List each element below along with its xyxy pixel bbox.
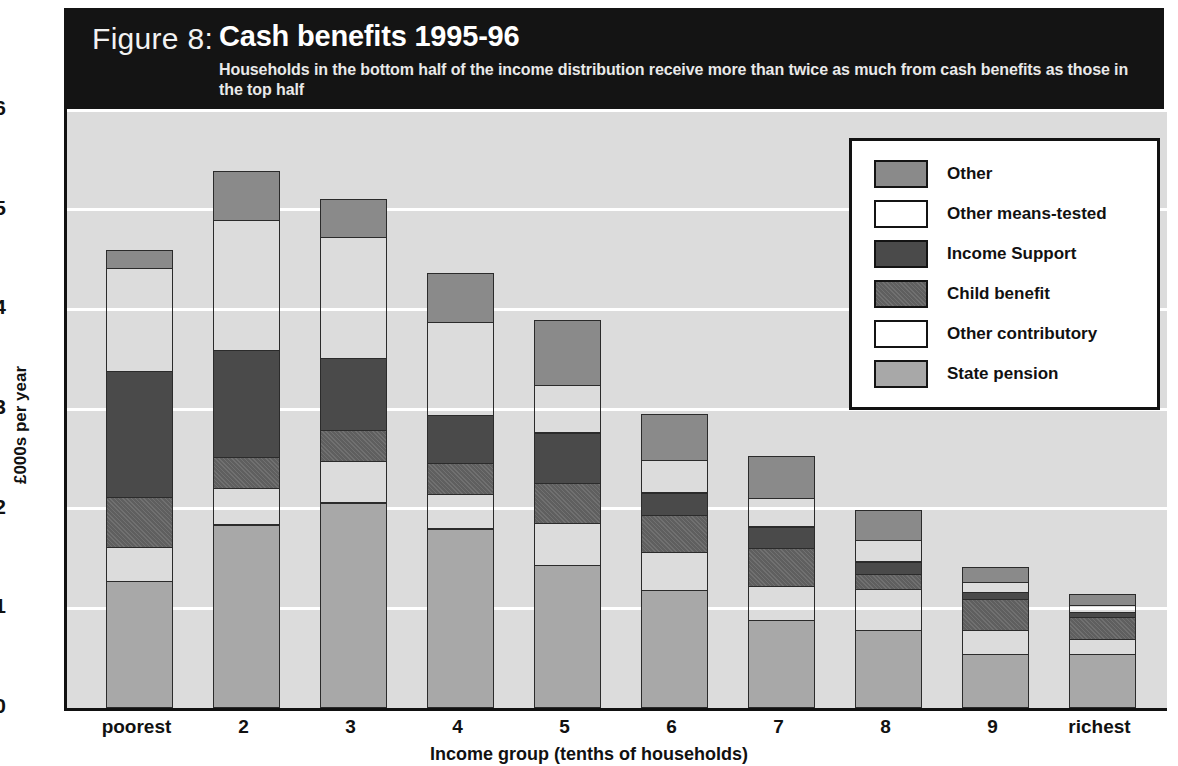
legend-item-other[interactable]: Other — [874, 157, 992, 191]
bar-segment-other-means-tested — [106, 268, 173, 372]
y-tick-6: 6 — [0, 96, 6, 120]
y-tick-0: 0 — [0, 694, 6, 718]
bar-segment-child-benefit — [855, 574, 922, 590]
bar-segment-other — [213, 171, 280, 220]
bar-richest — [1069, 595, 1136, 708]
bar-8 — [855, 512, 922, 708]
bar-segment-other-contributory — [748, 586, 815, 621]
bar-segment-child-benefit — [320, 429, 387, 461]
bar-segment-income-support — [427, 415, 494, 464]
y-tick-1: 1 — [0, 594, 6, 618]
bar-segment-state-pension — [962, 654, 1029, 708]
bar-segment-other-means-tested — [641, 459, 708, 493]
bar-segment-other-means-tested — [855, 539, 922, 562]
figure-container: Figure 8: Cash benefits 1995-96 Househol… — [0, 0, 1178, 766]
bar-segment-child-benefit — [748, 547, 815, 587]
bar-segment-other — [962, 567, 1029, 583]
bar-segment-other — [748, 456, 815, 498]
bar-segment-other-contributory — [641, 551, 708, 591]
bar-segment-child-benefit — [534, 482, 601, 523]
x-tick-3: 3 — [291, 716, 411, 738]
bar-segment-other-contributory — [106, 546, 173, 582]
x-tick-9: 9 — [933, 716, 1053, 738]
bar-segment-other-means-tested — [962, 582, 1029, 593]
bar-segment-child-benefit — [106, 496, 173, 547]
bar-segment-state-pension — [641, 590, 708, 708]
legend-item-other-contributory[interactable]: Other contributory — [874, 317, 1097, 351]
x-tick-richest: richest — [1040, 716, 1160, 738]
legend-label-state-pension: State pension — [947, 364, 1058, 384]
bar-segment-other — [534, 320, 601, 386]
x-tick-4: 4 — [398, 716, 518, 738]
bar-segment-other-contributory — [534, 522, 601, 566]
bar-segment-state-pension — [213, 524, 280, 708]
bar-segment-other-means-tested — [213, 219, 280, 351]
bar-segment-child-benefit — [641, 514, 708, 552]
bar-segment-other-means-tested — [534, 385, 601, 434]
y-axis-label-wrapper: £000s per year — [8, 330, 34, 530]
y-tick-3: 3 — [0, 395, 6, 419]
x-tick-7: 7 — [719, 716, 839, 738]
legend-item-income-support[interactable]: Income Support — [874, 237, 1076, 271]
bar-segment-income-support — [534, 432, 601, 483]
figure-number: Figure 8: — [92, 22, 213, 56]
x-axis-label: Income group (tenths of households) — [0, 744, 1178, 765]
bar-segment-income-support — [213, 350, 280, 458]
x-tick-2: 2 — [184, 716, 304, 738]
bar-segment-other-contributory — [213, 487, 280, 525]
bar-segment-income-support — [106, 371, 173, 498]
bar-2 — [213, 173, 280, 708]
legend-label-other-contributory: Other contributory — [947, 324, 1097, 344]
bar-segment-income-support — [320, 358, 387, 431]
bar-segment-other — [106, 250, 173, 269]
legend-label-child-benefit: Child benefit — [947, 284, 1050, 304]
bar-segment-other-contributory — [962, 630, 1029, 655]
legend-swatch-other — [874, 160, 928, 188]
bar-segment-income-support — [855, 561, 922, 575]
bar-segment-state-pension — [427, 528, 494, 708]
figure-title: Cash benefits 1995-96 — [219, 20, 519, 53]
bar-segment-other-contributory — [320, 460, 387, 503]
bar-segment-other-contributory — [1069, 639, 1136, 655]
bar-segment-other — [320, 199, 387, 237]
legend-swatch-other-means-tested — [874, 200, 928, 228]
bar-segment-other — [427, 273, 494, 323]
bar-6 — [641, 416, 708, 708]
figure-header-band: Figure 8: Cash benefits 1995-96 Househol… — [64, 8, 1164, 110]
bar-7 — [748, 458, 815, 708]
legend-swatch-child-benefit — [874, 280, 928, 308]
bar-segment-other-means-tested — [320, 236, 387, 359]
legend-label-income-support: Income Support — [947, 244, 1076, 264]
legend-item-other-means-tested[interactable]: Other means-tested — [874, 197, 1107, 231]
bar-segment-other-contributory — [427, 493, 494, 529]
y-axis-label: £000s per year — [11, 325, 31, 525]
legend-label-other: Other — [947, 164, 992, 184]
bar-segment-child-benefit — [1069, 617, 1136, 640]
legend-item-child-benefit[interactable]: Child benefit — [874, 277, 1050, 311]
bar-segment-child-benefit — [427, 462, 494, 494]
bar-segment-other — [855, 510, 922, 540]
bar-segment-state-pension — [534, 565, 601, 708]
legend-item-state-pension[interactable]: State pension — [874, 357, 1058, 391]
bar-9 — [962, 568, 1029, 708]
y-tick-4: 4 — [0, 295, 6, 319]
bar-segment-child-benefit — [213, 456, 280, 488]
bar-5 — [534, 321, 601, 708]
gridline — [67, 109, 1167, 112]
bar-segment-child-benefit — [962, 599, 1029, 631]
bar-segment-other — [641, 414, 708, 460]
y-tick-5: 5 — [0, 196, 6, 220]
legend-swatch-income-support — [874, 240, 928, 268]
bar-segment-other-means-tested — [748, 497, 815, 527]
bar-segment-other-means-tested — [427, 322, 494, 416]
bar-segment-state-pension — [855, 630, 922, 708]
figure-subtitle: Households in the bottom half of the inc… — [219, 60, 1149, 100]
legend-swatch-state-pension — [874, 360, 928, 388]
bar-segment-state-pension — [320, 502, 387, 708]
x-tick-6: 6 — [612, 716, 732, 738]
bar-segment-income-support — [641, 492, 708, 515]
x-tick-5: 5 — [505, 716, 625, 738]
bar-3 — [320, 201, 387, 708]
x-tick-8: 8 — [826, 716, 946, 738]
legend-label-other-means-tested: Other means-tested — [947, 204, 1107, 224]
